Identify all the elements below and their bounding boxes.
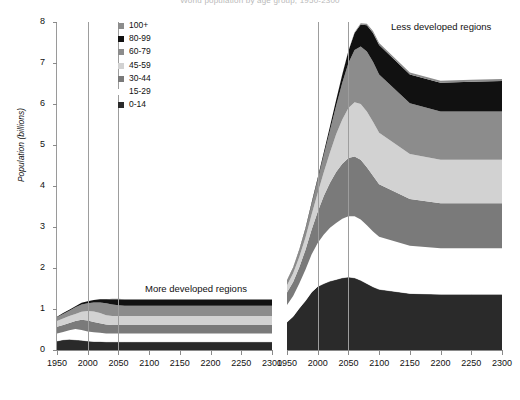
x-axis-tick-label: 1950: [270, 359, 304, 368]
y-axis-tick-label: 7: [0, 58, 45, 67]
x-axis-tick-mark: [272, 351, 273, 355]
x-axis-tick-mark: [149, 351, 150, 355]
legend-swatch-icon: [118, 102, 124, 108]
x-axis-tick-mark: [241, 351, 242, 355]
y-axis-tick-label: 3: [0, 222, 45, 231]
x-axis-tick-mark: [410, 351, 411, 355]
plot-area-less-developed: [287, 22, 502, 350]
y-axis-tick-label: 0: [0, 345, 45, 354]
x-axis-tick-label: 2250: [224, 359, 258, 368]
y-axis-tick-label: 4: [0, 181, 45, 190]
x-axis-tick-label: 2000: [301, 359, 335, 368]
legend-swatch-icon: [118, 36, 124, 42]
legend-label: 45-59: [129, 59, 151, 72]
legend-label: 0-14: [129, 98, 146, 111]
x-axis-tick-label: 2000: [71, 359, 105, 368]
x-axis-tick-label: 2200: [424, 359, 458, 368]
x-axis-tick-label: 2100: [132, 359, 166, 368]
x-axis-tick-mark: [118, 351, 119, 355]
x-axis-tick-label: 2200: [194, 359, 228, 368]
legend-label: 15-29: [129, 85, 151, 98]
legend-label: 60-79: [129, 45, 151, 58]
gridline-2000: [88, 22, 89, 350]
x-axis-tick-mark: [379, 351, 380, 355]
x-axis-tick-mark: [211, 351, 212, 355]
x-axis-tick-label: 2050: [101, 359, 135, 368]
chart-title: World population by age group, 1950-2300: [0, 0, 520, 5]
plot-area-more-developed: [57, 22, 272, 350]
x-axis-tick-label: 2100: [362, 359, 396, 368]
legend-swatch-icon: [118, 63, 124, 69]
x-axis-tick-mark: [441, 351, 442, 355]
x-axis-tick-mark: [57, 351, 58, 355]
legend-swatch-icon: [118, 89, 124, 95]
y-axis-tick-label: 1: [0, 304, 45, 313]
panel-label-more-developed-regions: More developed regions: [145, 283, 247, 294]
y-axis-tick-label: 2: [0, 263, 45, 272]
legend-label: 30-44: [129, 72, 151, 85]
x-axis-tick-mark: [502, 351, 503, 355]
chart-root: World population by age group, 1950-2300…: [0, 0, 520, 400]
x-axis-tick-mark: [88, 351, 89, 355]
panel-label-less-developed-regions: Less developed regions: [391, 21, 491, 32]
y-axis-tick-label: 6: [0, 99, 45, 108]
x-axis-tick-mark: [348, 351, 349, 355]
legend-swatch-icon: [118, 49, 124, 55]
x-axis-tick-mark: [318, 351, 319, 355]
x-axis-tick-label: 2250: [454, 359, 488, 368]
gridline-2050: [118, 22, 119, 350]
x-axis-tick-mark: [287, 351, 288, 355]
legend-label: 100+: [129, 19, 148, 32]
gridline-2000: [318, 22, 319, 350]
x-axis-tick-label: 2050: [331, 359, 365, 368]
legend-swatch-icon: [118, 76, 124, 82]
x-axis-tick-label: 2150: [393, 359, 427, 368]
gridline-2050: [348, 22, 349, 350]
legend-label: 80-99: [129, 32, 151, 45]
panel-less-developed-regions: [287, 22, 502, 350]
x-axis-tick-label: 2300: [485, 359, 519, 368]
x-axis-tick-label: 1950: [40, 359, 74, 368]
x-axis-tick-mark: [180, 351, 181, 355]
y-axis-tick-label: 8: [0, 17, 45, 26]
x-axis-tick-label: 2150: [163, 359, 197, 368]
x-axis-tick-mark: [471, 351, 472, 355]
y-axis-tick-label: 5: [0, 140, 45, 149]
panel-more-developed-regions: [57, 22, 272, 350]
legend-swatch-icon: [118, 23, 124, 29]
